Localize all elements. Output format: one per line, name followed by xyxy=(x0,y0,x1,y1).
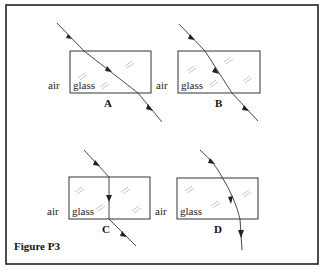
glass-label-b: glass xyxy=(181,79,203,91)
panel-a: air glass A xyxy=(48,23,162,122)
panel-c: air glass C xyxy=(47,150,150,246)
panel-b: air glass B xyxy=(156,24,260,121)
air-label-c: air xyxy=(47,205,59,217)
air-label-b: air xyxy=(156,79,168,91)
panel-label-d: D xyxy=(214,223,222,235)
air-label-d: air xyxy=(155,205,167,217)
panel-label-c: C xyxy=(102,223,110,235)
glass-label-c: glass xyxy=(72,205,94,217)
air-label-a: air xyxy=(48,79,60,91)
figure-caption: Figure P3 xyxy=(14,240,60,252)
panel-d: air glass D xyxy=(155,150,258,250)
figure-frame xyxy=(6,5,318,264)
panel-label-b: B xyxy=(215,97,223,109)
glass-label-a: glass xyxy=(73,79,95,91)
glass-label-d: glass xyxy=(180,205,202,217)
light-ray-d xyxy=(200,150,242,250)
panel-label-a: A xyxy=(104,97,112,109)
figure-p3-diagram: air glass A air glass B air xyxy=(0,0,324,270)
